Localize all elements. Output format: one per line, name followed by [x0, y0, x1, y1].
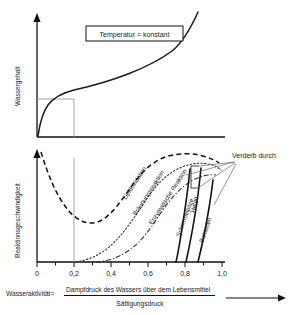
bottom-y-axis-label: Reaktionsgeschwindigkeit [14, 183, 22, 258]
figure-water-activity-diagram: Wassergehalt Temperatur = konstant Reakt… [0, 0, 292, 315]
verderb-durch-label: Verderb durch [232, 152, 276, 159]
diagram-svg: Wassergehalt Temperatur = konstant Reakt… [0, 0, 292, 315]
bottom-panel: Reaktionsgeschwindigkeit 0 0,2 0,4 0,6 0… [14, 149, 276, 277]
caption-denominator: Sättigungsdruck [116, 300, 164, 308]
temperature-annotation-label: Temperatur = konstant [100, 31, 170, 39]
curve-label-bakterien: Bakterien [197, 216, 213, 243]
x-tick-label-5: 1,0 [217, 270, 227, 277]
bottom-y-axis-arrow-icon [33, 149, 40, 158]
caption-wasseraktivitaet: Wasseraktivität= Dampfdruck des Wassers … [6, 286, 286, 308]
top-y-axis-label: Wassergehalt [14, 66, 22, 106]
x-tick-label-2: 0,4 [106, 270, 116, 277]
caption-prefix: Wasseraktivität= [6, 290, 54, 297]
top-panel: Wassergehalt Temperatur = konstant [14, 12, 225, 137]
curve-label-hefen: Hefen [189, 195, 199, 213]
temperature-annotation-box: Temperatur = konstant [86, 26, 183, 41]
caption-arrow-icon [226, 295, 286, 302]
caption-numerator: Dampfdruck des Wassers über dem Lebensmi… [66, 286, 211, 294]
x-tick-label-4: 0,8 [180, 270, 190, 277]
bottom-y-axis [33, 149, 40, 262]
x-tick-label-1: 0,2 [69, 270, 79, 277]
top-y-axis [33, 13, 40, 137]
top-y-axis-arrow-icon [33, 13, 40, 22]
bottom-x-ticks [37, 262, 222, 267]
x-tick-label-3: 0,6 [143, 270, 153, 277]
x-tick-label-0: 0 [35, 270, 39, 277]
